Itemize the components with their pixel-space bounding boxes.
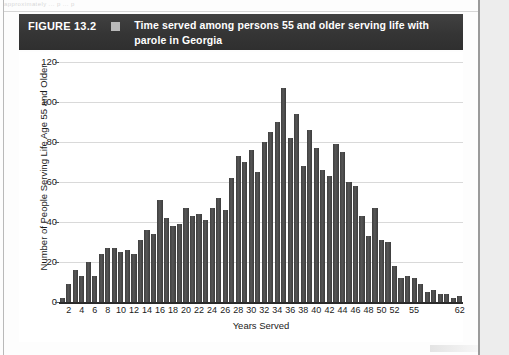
bar	[131, 254, 136, 302]
x-tick-label: 26	[220, 305, 230, 315]
bar	[307, 130, 312, 302]
figure-number: FIGURE 13.2	[28, 18, 96, 33]
bar	[144, 230, 149, 302]
bar	[66, 284, 71, 302]
bar	[327, 176, 332, 302]
bar	[151, 234, 156, 302]
cropped-body-text: approximately ... p ... p	[4, 1, 478, 10]
x-axis-title: Years Served	[59, 320, 463, 331]
x-tick-label: 16	[155, 305, 165, 315]
y-tick-label: 20	[31, 256, 57, 267]
bar	[138, 240, 143, 302]
x-tick-label: 14	[142, 305, 152, 315]
x-tick-label: 34	[272, 305, 282, 315]
bar	[223, 210, 228, 302]
bar	[281, 88, 286, 302]
bar	[164, 218, 169, 302]
bar	[170, 226, 175, 302]
bar	[262, 142, 267, 302]
bar	[398, 278, 403, 302]
x-tick-label: 22	[194, 305, 204, 315]
bar	[92, 276, 97, 302]
x-axis-line	[59, 302, 463, 304]
page-edge-right	[478, 0, 480, 355]
bar	[288, 138, 293, 302]
page-gutter	[480, 0, 509, 355]
bar	[346, 182, 351, 302]
page-top-rule	[4, 11, 478, 12]
bar	[275, 122, 280, 302]
bar	[99, 254, 104, 302]
x-tick-label: 28	[233, 305, 243, 315]
bar	[314, 148, 319, 302]
bar	[196, 214, 201, 302]
x-tick-label: 42	[324, 305, 334, 315]
plot-area: 020406080100120 246810121416182022242628…	[59, 62, 463, 302]
bar	[431, 290, 436, 302]
bar	[418, 284, 423, 302]
bar	[385, 242, 390, 302]
x-tick-label: 48	[364, 305, 374, 315]
bar	[216, 198, 221, 302]
bar	[73, 270, 78, 302]
bar	[255, 172, 260, 302]
bar	[183, 208, 188, 302]
figure-title-banner: FIGURE 13.2 Time served among persons 55…	[19, 14, 463, 50]
x-tick-label: 10	[116, 305, 126, 315]
bar	[294, 114, 299, 302]
bar	[229, 178, 234, 302]
bar	[438, 294, 443, 302]
x-tick-label: 52	[390, 305, 400, 315]
bar	[392, 266, 397, 302]
figure-title: Time served among persons 55 and older s…	[134, 18, 455, 47]
y-tick-label: 120	[31, 56, 57, 67]
bar	[353, 186, 358, 302]
y-tick-label: 40	[31, 216, 57, 227]
y-tick-label: 100	[31, 96, 57, 107]
bar	[86, 262, 91, 302]
x-tick-label: 50	[377, 305, 387, 315]
y-tick-label: 80	[31, 136, 57, 147]
x-tick-label: 18	[168, 305, 178, 315]
bar	[340, 152, 345, 302]
bar	[372, 208, 377, 302]
bar	[242, 162, 247, 302]
bar	[366, 236, 371, 302]
x-tick-label: 24	[207, 305, 217, 315]
bar-series	[59, 62, 463, 302]
bar	[405, 276, 410, 302]
scanned-page: approximately ... p ... p FIGURE 13.2 Ti…	[0, 0, 509, 355]
bar	[105, 248, 110, 302]
bar	[236, 156, 241, 302]
bar	[79, 276, 84, 302]
x-tick-label: 32	[259, 305, 269, 315]
x-tick-label: 20	[181, 305, 191, 315]
x-tick-label: 38	[298, 305, 308, 315]
x-tick-label: 44	[337, 305, 347, 315]
x-tick-label: 36	[285, 305, 295, 315]
bar	[444, 294, 449, 302]
bar	[177, 224, 182, 302]
x-tick-label: 62	[455, 305, 465, 315]
page-edge-left	[3, 0, 4, 355]
x-tick-label: 2	[66, 305, 71, 315]
bar	[320, 170, 325, 302]
x-tick-label: 30	[246, 305, 256, 315]
x-tick-label: 12	[129, 305, 139, 315]
bar	[157, 200, 162, 302]
bar	[359, 216, 364, 302]
bar	[190, 216, 195, 302]
bar	[301, 166, 306, 302]
y-axis-title: Number of People Serving Life Age 55 and…	[38, 43, 49, 293]
bar	[379, 240, 384, 302]
x-tick-label: 55	[409, 305, 419, 315]
bar	[125, 250, 130, 302]
y-tick-label: 0	[31, 296, 57, 307]
x-tick-label: 40	[311, 305, 321, 315]
x-tick-label: 4	[79, 305, 84, 315]
bar	[333, 144, 338, 302]
x-tick-label: 46	[350, 305, 360, 315]
bar	[412, 278, 417, 302]
x-tick-label: 6	[92, 305, 97, 315]
bar	[203, 220, 208, 302]
